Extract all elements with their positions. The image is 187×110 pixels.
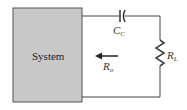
capacitor-label: CC <box>113 24 125 38</box>
load-resistor-label: RL <box>167 49 178 63</box>
system-label: System <box>32 50 64 62</box>
output-resistance-label: Ro <box>103 60 113 74</box>
arrow-left-icon <box>95 53 118 60</box>
circuit-diagram: System CC RL Ro <box>0 0 187 110</box>
circuit-svg <box>0 0 187 110</box>
capacitor-icon <box>120 10 125 22</box>
